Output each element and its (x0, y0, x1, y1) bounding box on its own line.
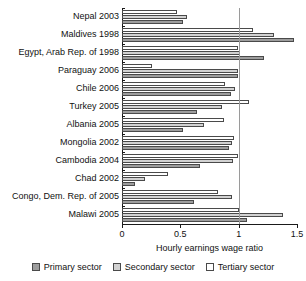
bar (122, 172, 168, 176)
bar (122, 128, 183, 132)
bar (122, 213, 283, 217)
bar (122, 64, 152, 68)
category-label: Cambodia 2004 (0, 155, 119, 165)
legend-item[interactable]: Primary sector (32, 262, 102, 272)
legend-swatch-secondary (113, 263, 121, 271)
x-axis-tick-label: 1 (224, 229, 254, 239)
bar (122, 200, 194, 204)
bar (122, 74, 238, 78)
bar-group (122, 44, 297, 62)
x-axis-tick (297, 224, 298, 228)
bar (122, 56, 264, 60)
bar-group (122, 188, 297, 206)
legend-label: Secondary sector (125, 262, 195, 272)
legend-swatch-primary (32, 263, 40, 271)
bar-group (122, 80, 297, 98)
bar-group (122, 170, 297, 188)
bar (122, 82, 225, 86)
bar (122, 92, 231, 96)
bar-group (122, 62, 297, 80)
bar (122, 136, 234, 140)
bar (122, 69, 238, 73)
bar (122, 15, 187, 19)
category-label: Chad 2002 (0, 173, 119, 183)
category-axis-tick (122, 116, 125, 117)
bar-chart: Nepal 2003Maldives 1998Egypt, Arab Rep. … (0, 0, 306, 281)
bar (122, 141, 232, 145)
category-axis-tick (122, 206, 125, 207)
bar-group (122, 206, 297, 224)
category-label: Albania 2005 (0, 119, 119, 129)
x-axis-tick-label: 1.5 (282, 229, 306, 239)
category-label: Chile 2006 (0, 83, 119, 93)
bar (122, 33, 274, 37)
bar (122, 38, 294, 42)
category-axis-tick (122, 224, 125, 225)
x-axis-tick (239, 224, 240, 228)
category-axis-tick (122, 152, 125, 153)
bar (122, 218, 247, 222)
category-label: Malawi 2005 (0, 209, 119, 219)
category-label: Congo, Dem. Rep. of 2005 (0, 191, 119, 201)
bar-group (122, 26, 297, 44)
bar-group (122, 116, 297, 134)
bar (122, 159, 233, 163)
x-axis-title: Hourly earnings wage ratio (122, 243, 297, 253)
x-axis-tick (180, 224, 181, 228)
bar-group (122, 152, 297, 170)
category-axis-tick (122, 62, 125, 63)
legend-item[interactable]: Secondary sector (113, 262, 195, 272)
category-axis-tick (122, 8, 125, 9)
category-label: Egypt, Arab Rep. of 1998 (0, 47, 119, 57)
legend-item[interactable]: Tertiary sector (206, 262, 275, 272)
x-axis-line (122, 224, 297, 225)
bar (122, 182, 135, 186)
legend-label: Tertiary sector (218, 262, 275, 272)
category-axis-tick (122, 98, 125, 99)
category-axis-labels: Nepal 2003Maldives 1998Egypt, Arab Rep. … (0, 8, 119, 224)
bar (122, 87, 235, 91)
bar (122, 118, 224, 122)
bar-group (122, 8, 297, 26)
category-axis-tick (122, 80, 125, 81)
bar (122, 164, 200, 168)
bar (122, 110, 197, 114)
bar (122, 146, 229, 150)
category-axis-tick (122, 188, 125, 189)
category-label: Maldives 1998 (0, 29, 119, 39)
category-axis-tick (122, 26, 125, 27)
bar (122, 190, 218, 194)
bar (122, 105, 222, 109)
bar (122, 28, 253, 32)
bar (122, 154, 238, 158)
category-axis-tick (122, 170, 125, 171)
category-label: Paraguay 2006 (0, 65, 119, 75)
plot-area (122, 8, 297, 224)
bar (122, 195, 232, 199)
bar-group (122, 134, 297, 152)
category-axis-tick (122, 134, 125, 135)
bar (122, 123, 204, 127)
category-label: Nepal 2003 (0, 11, 119, 21)
category-label: Turkey 2005 (0, 101, 119, 111)
gridline-1 (239, 8, 240, 224)
category-axis-tick (122, 44, 125, 45)
bar (122, 10, 177, 14)
category-label: Mongolia 2002 (0, 137, 119, 147)
bar (122, 208, 239, 212)
x-axis-tick-label: 0.5 (165, 229, 195, 239)
bar (122, 100, 249, 104)
bar (122, 177, 145, 181)
chart-legend: Primary sectorSecondary sectorTertiary s… (0, 262, 306, 272)
bar (122, 20, 183, 24)
bar (122, 46, 238, 50)
legend-label: Primary sector (44, 262, 102, 272)
bar-group (122, 98, 297, 116)
x-axis-tick-label: 0 (107, 229, 137, 239)
bar (122, 51, 240, 55)
legend-swatch-tertiary (206, 263, 214, 271)
